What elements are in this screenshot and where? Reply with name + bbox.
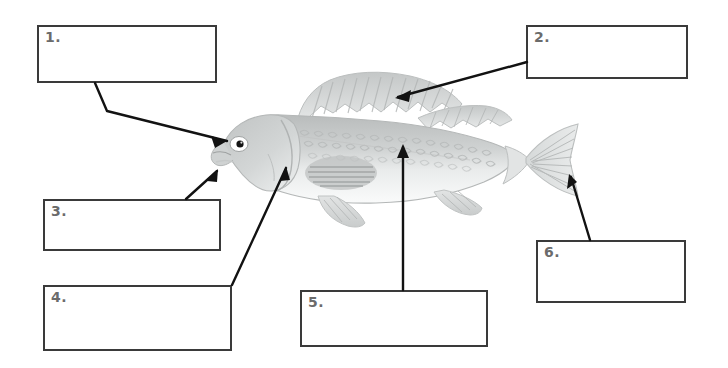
answer-box-6-number: 6.: [544, 245, 560, 259]
caudal-fin: [526, 124, 578, 196]
answer-box-4[interactable]: 4.: [43, 285, 232, 351]
anal-fin: [434, 190, 482, 215]
answer-box-2-number: 2.: [534, 30, 550, 44]
answer-box-5-number: 5.: [308, 295, 324, 309]
eye: [230, 137, 248, 152]
pectoral-fin: [305, 156, 377, 190]
answer-box-4-number: 4.: [51, 290, 67, 304]
answer-box-2[interactable]: 2.: [526, 25, 688, 79]
answer-box-5[interactable]: 5.: [300, 290, 488, 347]
answer-box-1-number: 1.: [45, 30, 61, 44]
answer-box-6[interactable]: 6.: [536, 240, 686, 303]
answer-box-3-number: 3.: [51, 204, 67, 218]
worksheet-page: 1. 2. 3. 4. 5. 6.: [0, 0, 728, 368]
answer-box-1[interactable]: 1.: [37, 25, 217, 83]
answer-box-3[interactable]: 3.: [43, 199, 221, 251]
